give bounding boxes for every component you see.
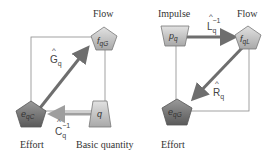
flow-label-right: Flow bbox=[237, 8, 258, 19]
left-diagram: fqG eqC q bbox=[16, 27, 117, 127]
right-diagram: pq fqL eqG bbox=[161, 26, 261, 125]
svg-text:q: q bbox=[97, 109, 102, 119]
flow-node-right: fqL bbox=[235, 26, 261, 49]
r-operator-label: ^ Rq bbox=[213, 87, 224, 100]
effort-label-left: Effort bbox=[20, 139, 44, 150]
flow-node-left: fqG bbox=[91, 27, 117, 50]
effort-label-right: Effort bbox=[161, 139, 185, 150]
diagram-canvas: fqG eqC q pq fqL eqG bbox=[0, 0, 275, 157]
impulse-node: pq bbox=[161, 26, 189, 46]
l-operator-label: ^ Lq−1 bbox=[207, 20, 224, 34]
impulse-label: Impulse bbox=[158, 8, 190, 19]
basic-quantity-label: Basic quantity bbox=[76, 139, 134, 150]
flow-label-left: Flow bbox=[93, 8, 114, 19]
g-operator-label: ^ Gq bbox=[50, 54, 62, 67]
effort-node-right: eqG bbox=[162, 99, 192, 125]
quantity-node: q bbox=[89, 101, 111, 127]
c-operator-label: ^ Cq−1 bbox=[55, 125, 74, 139]
arrow-g-operator bbox=[40, 50, 86, 108]
